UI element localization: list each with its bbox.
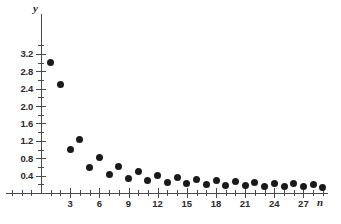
x-axis-tick-minor	[109, 190, 110, 196]
y-axis-tick-label-wrap: 2.8	[0, 66, 33, 77]
x-axis-tick-minor	[60, 190, 61, 196]
y-axis-tick-label-wrap: 0.4	[0, 170, 33, 181]
data-point	[213, 177, 220, 184]
y-axis-tick-label-wrap: 3.2	[0, 48, 33, 59]
data-point	[135, 168, 142, 175]
y-axis-tick-label: 3.2	[5, 48, 33, 59]
x-axis-tick-major	[216, 188, 217, 198]
x-axis-tick-label: 15	[177, 198, 197, 209]
x-axis-tick-minor	[167, 190, 168, 196]
x-axis-tick-major	[129, 188, 130, 198]
x-axis-tick-major	[158, 188, 159, 198]
y-axis-tick-minor	[38, 184, 44, 185]
y-axis-tick-minor	[38, 132, 44, 133]
data-point	[261, 183, 268, 190]
x-axis-tick-minor	[148, 190, 149, 196]
x-axis-tick-major	[99, 188, 100, 198]
y-axis-tick-label: 2.8	[5, 66, 33, 77]
y-axis-tick-label-wrap: 1.2	[0, 135, 33, 146]
y-axis-tick-label: 1.2	[5, 135, 33, 146]
data-point	[96, 154, 103, 161]
data-point	[203, 181, 210, 188]
y-axis-tick-minor	[38, 167, 44, 168]
y-axis-tick-minor	[38, 45, 44, 46]
data-point	[47, 59, 54, 66]
y-axis-tick-label: 2.4	[5, 83, 33, 94]
y-axis-tick-minor	[38, 115, 44, 116]
scatter-plot: 0.40.81.21.62.02.42.83.2 369121518212427…	[0, 0, 341, 224]
x-axis-tick-minor	[31, 190, 32, 196]
x-axis-tick-minor	[51, 190, 52, 196]
data-point	[76, 136, 83, 143]
x-axis-tick-major	[187, 188, 188, 198]
x-axis-tick-label: 27	[293, 198, 313, 209]
y-axis-tick-label: 2.0	[5, 101, 33, 112]
data-point	[174, 174, 181, 181]
y-axis-tick-minor	[38, 150, 44, 151]
x-axis-tick-minor	[226, 190, 227, 196]
y-axis-tick-label-wrap: 0.8	[0, 153, 33, 164]
x-axis-tick-major	[274, 188, 275, 198]
data-point	[222, 182, 229, 189]
x-axis-tick-minor	[235, 190, 236, 196]
x-axis-tick-label: 3	[60, 198, 80, 209]
y-axis-tick-major	[36, 54, 46, 55]
x-axis-tick-major	[245, 188, 246, 198]
x-axis-tick-minor	[22, 190, 23, 196]
data-point	[242, 182, 249, 189]
data-point	[183, 180, 190, 187]
x-axis-title: n	[317, 196, 323, 208]
data-point	[164, 179, 171, 186]
y-axis-tick-label-wrap: 2.4	[0, 83, 33, 94]
data-point	[125, 175, 132, 182]
y-axis-tick-label: 0.4	[5, 170, 33, 181]
y-axis-tick-minor	[38, 63, 44, 64]
x-axis-tick-minor	[119, 190, 120, 196]
y-axis-tick-label: 1.6	[5, 118, 33, 129]
y-axis-tick-major	[36, 71, 46, 72]
y-axis-tick-minor	[38, 97, 44, 98]
x-axis-tick-label: 6	[89, 198, 109, 209]
x-axis-tick-minor	[90, 190, 91, 196]
data-point	[251, 179, 258, 186]
data-point	[57, 81, 64, 88]
data-point	[290, 180, 297, 187]
data-point	[193, 176, 200, 183]
data-point	[67, 146, 74, 153]
data-point	[271, 180, 278, 187]
y-axis-title: y	[33, 2, 38, 14]
data-point	[281, 183, 288, 190]
data-point	[232, 178, 239, 185]
y-axis-tick-major	[36, 106, 46, 107]
x-axis-tick-minor	[138, 190, 139, 196]
y-axis-tick-major	[36, 176, 46, 177]
x-axis-tick-minor	[284, 190, 285, 196]
x-axis-tick-label: 21	[235, 198, 255, 209]
y-axis-tick-label-wrap: 1.6	[0, 118, 33, 129]
data-point	[310, 181, 317, 188]
y-axis-tick-major	[36, 89, 46, 90]
y-axis-tick-major	[36, 158, 46, 159]
data-point	[86, 164, 93, 171]
data-point	[106, 171, 113, 178]
x-axis-tick-minor	[12, 190, 13, 196]
x-axis-tick-minor	[313, 190, 314, 196]
y-axis-tick-major	[36, 141, 46, 142]
x-axis-tick-minor	[294, 190, 295, 196]
y-axis-tick-major	[36, 123, 46, 124]
x-axis-tick-minor	[265, 190, 266, 196]
data-point	[144, 177, 151, 184]
y-axis-tick-label-wrap: 2.0	[0, 101, 33, 112]
data-point	[300, 183, 307, 190]
data-point	[319, 184, 326, 191]
x-axis-tick-minor	[206, 190, 207, 196]
x-axis-tick-major	[70, 188, 71, 198]
data-point	[115, 163, 122, 170]
x-axis-tick-label: 9	[119, 198, 139, 209]
x-axis-tick-minor	[80, 190, 81, 196]
y-axis-tick-label: 0.8	[5, 153, 33, 164]
x-axis-tick-minor	[197, 190, 198, 196]
x-axis-tick-label: 24	[264, 198, 284, 209]
y-axis-tick-minor	[38, 80, 44, 81]
x-axis-tick-minor	[255, 190, 256, 196]
